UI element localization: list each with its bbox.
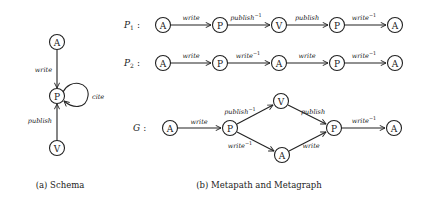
svg-text:A: A xyxy=(53,38,61,48)
mg-node-v: V xyxy=(274,94,289,109)
schema-node-a: A xyxy=(50,35,65,50)
mg-edge-label-v-p2: publish xyxy=(301,108,325,116)
schema-edge-label-write: write xyxy=(35,66,52,74)
svg-text:A: A xyxy=(166,124,174,134)
p2-node-1: A xyxy=(156,56,171,71)
p1-edge-label-1: write xyxy=(182,14,199,22)
svg-text:A: A xyxy=(390,124,398,134)
mg-node-p2: P xyxy=(327,121,342,136)
p1-node-3: V xyxy=(272,18,287,33)
mg-edge-label-a1-p1: write xyxy=(190,118,207,126)
mg-node-a-mid: A xyxy=(275,148,290,163)
p1-node-5: A xyxy=(388,18,403,33)
svg-text:P: P xyxy=(227,124,233,134)
p1-edge-label-3: publish xyxy=(295,14,319,22)
svg-text:P: P xyxy=(334,21,340,31)
metapath-p2-label: P2: xyxy=(123,58,140,69)
p1-node-4: P xyxy=(330,18,345,33)
p1-node-1: A xyxy=(156,18,171,33)
p2-node-5: A xyxy=(388,56,403,71)
p1-edge-label-4: write−1 xyxy=(352,12,377,22)
svg-text:A: A xyxy=(391,59,399,69)
p2-edge-label-2: write−1 xyxy=(236,50,261,60)
svg-text:V: V xyxy=(275,21,283,31)
svg-text:A: A xyxy=(275,59,283,69)
svg-text:P: P xyxy=(217,59,223,69)
mg-node-a2: A xyxy=(387,121,402,136)
metagraph-label: G: xyxy=(133,123,146,133)
figure-canvas: write publish cite A P V (a) Schema P1: … xyxy=(0,0,424,206)
schema-edge-cite-loop xyxy=(63,83,88,106)
p2-node-2: P xyxy=(213,56,228,71)
caption-metapath-metagraph: (b) Metapath and Metagraph xyxy=(196,180,322,190)
schema-node-p: P xyxy=(50,89,65,104)
p2-edge-label-4: write−1 xyxy=(352,50,377,60)
mg-edge-label-amid-p2: write xyxy=(302,142,319,150)
p2-node-4: P xyxy=(330,56,345,71)
svg-text:P: P xyxy=(217,21,223,31)
p2-edge-label-3: write xyxy=(298,52,315,60)
svg-text:A: A xyxy=(391,21,399,31)
mg-edge-label-p2-a2: write−1 xyxy=(352,115,377,125)
mg-edge-label-p1-v: publish−1 xyxy=(224,106,256,116)
p2-node-3: A xyxy=(272,56,287,71)
mg-edge-label-p1-amid: write−1 xyxy=(228,140,253,150)
svg-text:P: P xyxy=(334,59,340,69)
svg-text:P: P xyxy=(54,92,60,102)
svg-text:P: P xyxy=(331,124,337,134)
schema-node-v: V xyxy=(50,141,65,156)
caption-schema: (a) Schema xyxy=(36,180,85,190)
svg-text:V: V xyxy=(277,97,285,107)
schema-graph: write publish cite A P V xyxy=(28,35,105,156)
schema-edge-label-publish: publish xyxy=(28,117,52,125)
p1-edge-label-2: publish−1 xyxy=(230,12,262,22)
svg-text:A: A xyxy=(159,21,167,31)
svg-text:A: A xyxy=(159,59,167,69)
metagraph-g: G: write publish−1 write−1 publish write… xyxy=(133,94,402,163)
mg-node-p1: P xyxy=(223,121,238,136)
mg-node-a1: A xyxy=(163,121,178,136)
metapath-p1-label: P1: xyxy=(123,20,140,31)
metapath-p1: P1: write publish−1 publish write−1 A P … xyxy=(123,12,403,33)
svg-text:V: V xyxy=(53,144,61,154)
svg-text:A: A xyxy=(278,151,286,161)
metapath-p2: P2: write write−1 write write−1 A P A P … xyxy=(123,50,403,71)
schema-edge-label-cite: cite xyxy=(92,93,104,101)
p2-edge-label-1: write xyxy=(182,52,199,60)
p1-node-2: P xyxy=(213,18,228,33)
